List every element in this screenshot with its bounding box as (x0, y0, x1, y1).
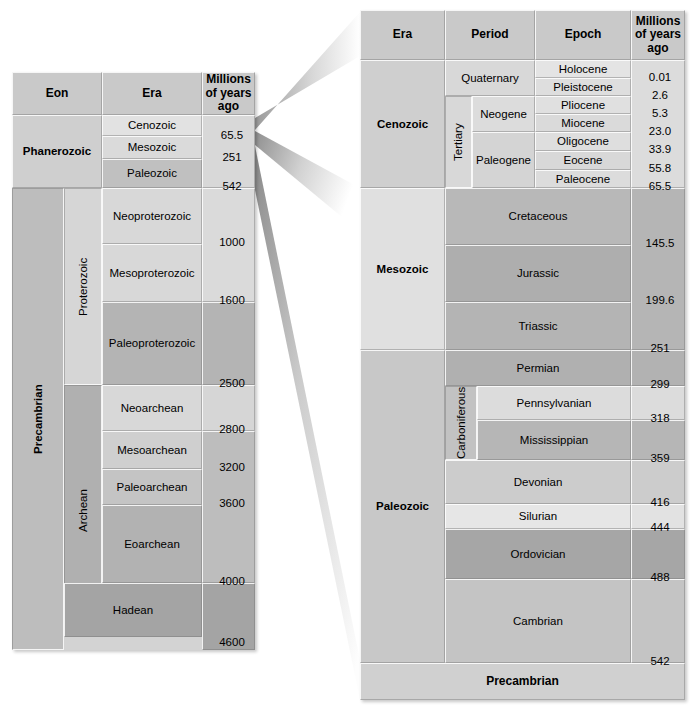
right-age-55-8: 55.8 (632, 162, 688, 175)
right-epoch-pliocene: Pliocene (535, 96, 631, 114)
right-header-epoch: Epoch (535, 10, 631, 60)
right-age-23-0: 23.0 (632, 125, 688, 138)
left-header-age: Millions of years ago (202, 72, 255, 115)
right-header-age-line2: of years (635, 28, 681, 41)
left-era-paleoarchean: Paleoarchean (102, 469, 202, 505)
right-header-age-line3: ago (647, 42, 668, 55)
right-epoch-oligocene: Oligocene (535, 132, 631, 151)
right-period-silurian: Silurian (445, 504, 631, 529)
right-era-paleozoic: Paleozoic (360, 350, 445, 663)
left-age-4000: 4000 (204, 575, 260, 588)
right-epoch-miocene: Miocene (535, 114, 631, 132)
left-era-mesoarchean: Mesoarchean (102, 431, 202, 469)
left-header-age-line1: Millions (206, 73, 251, 86)
left-era-cenozoic: Cenozoic (102, 115, 202, 136)
left-era-paleozoic: Paleozoic (102, 159, 202, 188)
left-era-mesoproterozoic: Mesoproterozoic (102, 244, 202, 302)
right-era-cenozoic: Cenozoic (360, 60, 445, 188)
right-age-fill-mesozoic (631, 188, 685, 350)
left-header-age-line3: ago (218, 100, 239, 113)
left-subeon-proterozoic: Proterozoic (64, 188, 102, 385)
right-period-permian: Permian (445, 350, 631, 386)
right-age-2-6: 2.6 (632, 89, 688, 102)
right-age-299: 299 (632, 378, 688, 391)
right-header-age-line1: Millions (636, 15, 681, 28)
right-period-devonian: Devonian (445, 460, 631, 504)
right-age-444: 444 (632, 521, 688, 534)
left-age-fill-paleoproterozoic (202, 302, 255, 385)
right-age-33-9: 33.9 (632, 143, 688, 156)
left-age-542: 542 (204, 180, 260, 193)
left-age-1000: 1000 (204, 236, 260, 249)
right-period-paleogene: Paleogene (472, 132, 535, 188)
left-age-2500: 2500 (204, 377, 260, 390)
right-age-318: 318 (632, 412, 688, 425)
left-eon-precambrian: Precambrian (12, 188, 64, 650)
left-age-3600: 3600 (204, 497, 260, 510)
right-age-145-5: 145.5 (632, 237, 688, 250)
right-header-age: Millions of years ago (631, 10, 685, 60)
right-age-0-01: 0.01 (632, 71, 688, 84)
right-epoch-paleocene: Paleocene (535, 170, 631, 188)
right-epoch-eocene: Eocene (535, 151, 631, 170)
left-era-mesozoic: Mesozoic (102, 136, 202, 159)
left-age-1600: 1600 (204, 294, 260, 307)
left-header-era: Era (102, 72, 202, 115)
left-era-paleoproterozoic: Paleoproterozoic (102, 302, 202, 385)
right-period-cambrian: Cambrian (445, 579, 631, 663)
left-era-neoarchean: Neoarchean (102, 385, 202, 431)
right-period-mississippian: Mississippian (477, 420, 631, 460)
left-eon-phanerozoic: Phanerozoic (12, 115, 102, 188)
right-age-359: 359 (632, 452, 688, 465)
right-epoch-pleistocene: Pleistocene (535, 78, 631, 96)
left-era-eoarchean: Eoarchean (102, 505, 202, 583)
left-age-4600: 4600 (204, 636, 260, 649)
left-era-hadean: Hadean (64, 583, 202, 637)
right-period-carboniferous: Carboniferous (445, 386, 477, 460)
right-age-fill-cambrian (631, 579, 685, 663)
connector-paleozoic-bottom (255, 146, 360, 700)
left-age-65-5: 65.5 (204, 129, 260, 142)
left-age-251: 251 (204, 151, 260, 164)
right-age-199-6: 199.6 (632, 294, 688, 307)
left-era-neoproterozoic: Neoproterozoic (102, 188, 202, 244)
right-age-251: 251 (632, 342, 688, 355)
right-footer-precambrian: Precambrian (360, 663, 685, 700)
eon-era-table: Eon Era Millions of years ago Phanerozoi… (12, 72, 255, 650)
era-period-epoch-table: Era Period Epoch Millions of years ago C… (360, 10, 685, 700)
right-epoch-holocene: Holocene (535, 60, 631, 78)
connector-cenozoic-bottom (255, 131, 360, 232)
right-header-period: Period (445, 10, 535, 60)
right-era-mesozoic: Mesozoic (360, 188, 445, 350)
right-period-triassic: Triassic (445, 302, 631, 350)
left-age-3200: 3200 (204, 461, 260, 474)
right-period-ordovician: Ordovician (445, 529, 631, 579)
right-period-quaternary: Quaternary (445, 60, 535, 96)
right-age-488: 488 (632, 571, 688, 584)
left-header-eon: Eon (12, 72, 102, 115)
right-period-tertiary: Tertiary (445, 96, 472, 188)
right-period-cretaceous: Cretaceous (445, 188, 631, 245)
right-age-5-3: 5.3 (632, 107, 688, 120)
right-age-65-5: 65.5 (632, 180, 688, 193)
right-header-era: Era (360, 10, 445, 60)
right-period-neogene: Neogene (472, 96, 535, 132)
right-age-416: 416 (632, 496, 688, 509)
left-age-2800: 2800 (204, 423, 260, 436)
right-period-jurassic: Jurassic (445, 245, 631, 302)
right-age-542: 542 (632, 655, 688, 668)
connector-cenozoic-top (255, 12, 360, 130)
right-period-pennsylvanian: Pennsylvanian (477, 386, 631, 420)
left-header-age-line2: of years (205, 87, 251, 100)
